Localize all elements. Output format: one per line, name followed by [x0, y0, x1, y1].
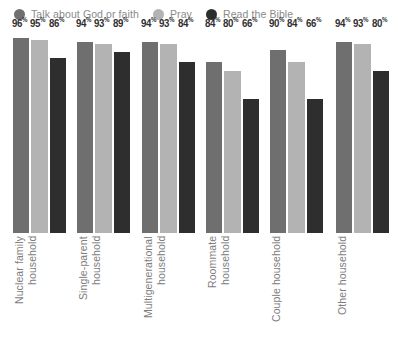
bar-value-label: 84% [178, 14, 193, 29]
bar-group-single-parent-household: 94%93%89% [77, 30, 130, 233]
bar-value-label: 90% [269, 14, 284, 29]
bar-group-couple-household: 90%84%66% [270, 30, 323, 233]
bar-pray-multigenerational-household[interactable]: 93% [160, 30, 176, 233]
bar-value-label: 93% [353, 14, 368, 29]
bar-value-number: 94 [76, 17, 86, 29]
category-label-text: Couple household [270, 236, 283, 349]
bar-value-label: 94% [76, 14, 91, 29]
category-label-text: Multigenerational household [142, 236, 168, 349]
bar-group-bars: 96%95%86% [13, 30, 66, 233]
category-label-roommate-household: Roommate household [206, 236, 259, 349]
bar-rect [50, 58, 66, 233]
bar-pray-single-parent-household[interactable]: 93% [95, 30, 111, 233]
bar-rect [160, 44, 176, 233]
percent-sign: % [345, 16, 350, 23]
bar-read-the-bible-nuclear-family-household[interactable]: 86% [50, 30, 66, 233]
percent-sign: % [252, 16, 257, 23]
bar-group-bars: 90%84%66% [270, 30, 323, 233]
bar-rect [270, 50, 286, 233]
bar-rect [373, 71, 389, 233]
percent-sign: % [22, 16, 27, 23]
bar-rect [179, 62, 195, 233]
percent-sign: % [104, 16, 109, 23]
percent-sign: % [279, 16, 284, 23]
plot-area: 96%95%86%94%93%89%94%93%84%84%80%66%90%8… [0, 30, 398, 233]
percent-sign: % [215, 16, 220, 23]
bar-read-the-bible-couple-household[interactable]: 66% [307, 30, 323, 233]
bar-talk-about-god-or-faith-roommate-household[interactable]: 84% [206, 30, 222, 233]
bar-value-label: 96% [12, 14, 27, 29]
bar-rect [307, 99, 323, 233]
bar-value-label: 93% [94, 14, 109, 29]
bar-rect [31, 40, 47, 233]
bar-rect [288, 62, 304, 233]
bar-value-label: 89% [113, 14, 128, 29]
bar-pray-couple-household[interactable]: 84% [288, 30, 304, 233]
bar-rect [354, 44, 370, 233]
bar-group-other-household: 94%93%80% [336, 30, 389, 233]
bar-value-number: 86 [49, 17, 59, 29]
bar-talk-about-god-or-faith-other-household[interactable]: 94% [336, 30, 352, 233]
bar-read-the-bible-roommate-household[interactable]: 66% [243, 30, 259, 233]
bar-chart: Talk about God or faith Pray Read the Bi… [0, 0, 398, 349]
bar-rect [95, 44, 111, 233]
bar-talk-about-god-or-faith-multigenerational-household[interactable]: 94% [142, 30, 158, 233]
percent-sign: % [188, 16, 193, 23]
bar-value-number: 66 [306, 17, 316, 29]
bar-value-label: 66% [306, 14, 321, 29]
bar-group-nuclear-family-household: 96%95%86% [13, 30, 66, 233]
category-label-text: Roommate household [206, 236, 232, 349]
bar-talk-about-god-or-faith-single-parent-household[interactable]: 94% [77, 30, 93, 233]
category-label-text: Other household [336, 236, 349, 349]
bar-value-number: 84 [205, 17, 215, 29]
percent-sign: % [233, 16, 238, 23]
percent-sign: % [169, 16, 174, 23]
bar-value-number: 66 [242, 17, 252, 29]
bar-rect [206, 62, 222, 233]
bar-value-number: 84 [178, 17, 188, 29]
percent-sign: % [59, 16, 64, 23]
bar-value-label: 84% [205, 14, 220, 29]
bar-group-roommate-household: 84%80%66% [206, 30, 259, 233]
bar-rect [142, 42, 158, 233]
bar-pray-nuclear-family-household[interactable]: 95% [31, 30, 47, 233]
percent-sign: % [297, 16, 302, 23]
category-label-text: Single-parent household [77, 236, 103, 349]
bar-read-the-bible-single-parent-household[interactable]: 89% [114, 30, 130, 233]
bar-group-bars: 94%93%89% [77, 30, 130, 233]
percent-sign: % [151, 16, 156, 23]
bar-read-the-bible-other-household[interactable]: 80% [373, 30, 389, 233]
bar-talk-about-god-or-faith-couple-household[interactable]: 90% [270, 30, 286, 233]
bar-pray-roommate-household[interactable]: 80% [224, 30, 240, 233]
category-label-single-parent-household: Single-parent household [77, 236, 130, 349]
bar-value-label: 95% [30, 14, 45, 29]
bar-group-bars: 84%80%66% [206, 30, 259, 233]
percent-sign: % [316, 16, 321, 23]
bar-read-the-bible-multigenerational-household[interactable]: 84% [179, 30, 195, 233]
bar-value-number: 90 [269, 17, 279, 29]
bar-rect [114, 52, 130, 233]
percent-sign: % [382, 16, 387, 23]
bar-value-number: 80 [372, 17, 382, 29]
category-label-multigenerational-household: Multigenerational household [142, 236, 195, 349]
bar-value-number: 89 [113, 17, 123, 29]
category-label-nuclear-family-household: Nuclear family household [13, 236, 66, 349]
percent-sign: % [363, 16, 368, 23]
category-label-couple-household: Couple household [270, 236, 323, 349]
bar-talk-about-god-or-faith-nuclear-family-household[interactable]: 96% [13, 30, 29, 233]
bar-rect [224, 71, 240, 233]
bar-value-number: 94 [141, 17, 151, 29]
bar-rect [243, 99, 259, 233]
percent-sign: % [40, 16, 45, 23]
bar-rect [336, 42, 352, 233]
bar-value-label: 84% [287, 14, 302, 29]
bar-value-label: 80% [372, 14, 387, 29]
bar-pray-other-household[interactable]: 93% [354, 30, 370, 233]
category-label-other-household: Other household [336, 236, 389, 349]
bar-value-number: 94 [335, 17, 345, 29]
bar-group-multigenerational-household: 94%93%84% [142, 30, 195, 233]
percent-sign: % [86, 16, 91, 23]
bar-value-label: 93% [159, 14, 174, 29]
percent-sign: % [123, 16, 128, 23]
bar-group-bars: 94%93%84% [142, 30, 195, 233]
